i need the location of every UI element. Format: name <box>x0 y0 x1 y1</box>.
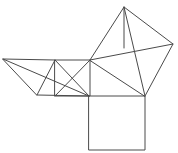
diagram-canvas <box>0 0 178 153</box>
geometric-figure <box>0 0 178 153</box>
bottom-square-face <box>89 96 145 150</box>
